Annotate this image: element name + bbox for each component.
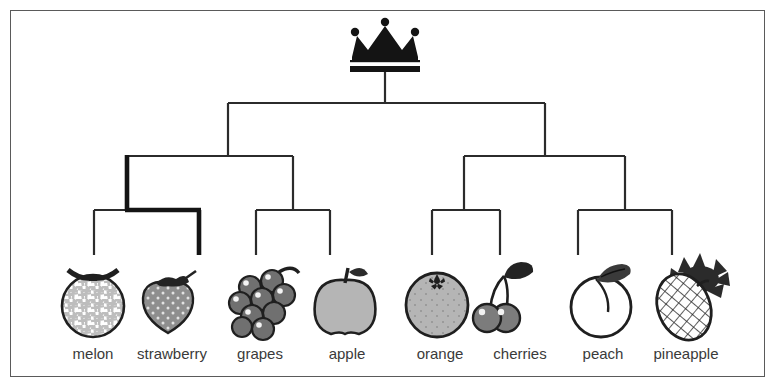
cherries-icon bbox=[473, 262, 533, 332]
label-apple: apple bbox=[329, 345, 366, 362]
strawberry-icon bbox=[143, 271, 196, 333]
tree-diagram bbox=[0, 0, 779, 389]
label-cherries: cherries bbox=[493, 345, 546, 362]
peach-icon bbox=[571, 264, 631, 337]
orange-icon bbox=[406, 273, 468, 337]
label-pineapple: pineapple bbox=[653, 345, 718, 362]
melon-icon bbox=[62, 270, 124, 337]
figure-canvas: melon strawberry grapes apple orange che… bbox=[0, 0, 779, 389]
label-strawberry: strawberry bbox=[137, 345, 207, 362]
apple-icon bbox=[315, 268, 376, 334]
tree-edges bbox=[94, 72, 672, 255]
grapes-icon bbox=[229, 268, 299, 340]
pineapple-icon bbox=[647, 253, 730, 348]
label-peach: peach bbox=[583, 345, 624, 362]
label-melon: melon bbox=[73, 345, 114, 362]
label-grapes: grapes bbox=[237, 345, 283, 362]
label-orange: orange bbox=[417, 345, 464, 362]
crown-icon bbox=[350, 18, 420, 72]
tree-highlighted-path bbox=[125, 155, 201, 255]
